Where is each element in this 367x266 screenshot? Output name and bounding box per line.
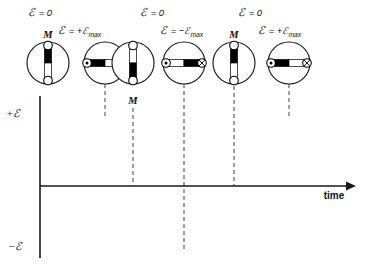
emf-equation-2: = +ℰ [66, 25, 89, 36]
coil-terminal-dot-left-2 [83, 59, 92, 68]
emf-equation-5: = 0 [246, 7, 263, 18]
axes: +ℰ −ℰ time [6, 96, 356, 258]
emf-equation-4: = −ℰ [168, 25, 191, 36]
annotation-labels: ℰ = 0 ℰ = +ℰmax ℰ = 0 ℰ = −ℰmax ℰ = 0 ℰ … [28, 6, 302, 38]
coil-terminal-ring-bottom-3 [129, 76, 138, 85]
emf-equation-1: = 0 [36, 7, 53, 18]
y-axis-positive-label: +ℰ [6, 107, 21, 119]
coil-label-m-3: M [127, 95, 138, 106]
annotation-label-5: ℰ = 0 [238, 6, 263, 18]
coil-terminal-cross-right-4 [198, 59, 207, 68]
emf-symbol-2: ℰ [58, 24, 66, 36]
emf-symbol-5: ℰ [238, 6, 246, 18]
emf-equation-6: = +ℰ [266, 25, 289, 36]
annotation-label-4: ℰ = −ℰmax [160, 24, 204, 38]
coil-terminal-ring-bottom-5 [230, 76, 239, 85]
annotation-label-3: ℰ = 0 [140, 6, 165, 18]
coil-terminal-cross-right-6 [303, 59, 312, 68]
emf-equation-3: = 0 [148, 7, 165, 18]
coil-diagram-5: M [213, 29, 255, 85]
coil-label-m-5: M [228, 29, 239, 40]
emf-symbol-1: ℰ [28, 6, 36, 18]
emf-subscript-6: max [288, 31, 301, 38]
figure-canvas: ℰ = 0 ℰ = +ℰmax ℰ = 0 ℰ = −ℰmax ℰ = 0 ℰ … [0, 0, 367, 266]
coil-terminal-dot-left-4 [162, 59, 171, 68]
coil-diagram-3: M [112, 41, 154, 106]
coil-terminal-ring-top-1 [44, 41, 53, 50]
emf-subscript-2: max [88, 31, 101, 38]
coil-diagram-6 [267, 42, 312, 84]
coil-diagram-4 [162, 42, 207, 84]
emf-symbol-4: ℰ [160, 24, 168, 36]
emf-symbol-6: ℰ [258, 24, 266, 36]
dashed-connector-lines [105, 84, 289, 252]
emf-symbol-3: ℰ [140, 6, 148, 18]
annotation-label-2: ℰ = +ℰmax [58, 24, 102, 38]
coil-label-m-1: M [42, 29, 53, 40]
emf-rotating-coil-figure: ℰ = 0 ℰ = +ℰmax ℰ = 0 ℰ = −ℰmax ℰ = 0 ℰ … [0, 0, 367, 266]
x-axis-label-time: time [324, 190, 345, 201]
coil-terminal-ring-top-3 [129, 41, 138, 50]
coil-terminal-dot-left-6 [267, 59, 276, 68]
x-axis-arrowhead [346, 182, 356, 191]
coil-diagram-1: M [27, 29, 69, 85]
coil-terminal-ring-top-5 [230, 41, 239, 50]
emf-subscript-4: max [190, 31, 203, 38]
annotation-label-1: ℰ = 0 [28, 6, 53, 18]
annotation-label-6: ℰ = +ℰmax [258, 24, 302, 38]
coil-terminal-ring-bottom-1 [44, 76, 53, 85]
y-axis-negative-label: −ℰ [8, 240, 23, 252]
